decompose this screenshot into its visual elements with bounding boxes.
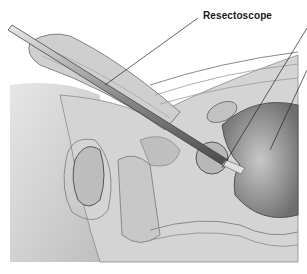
resectoscope-label: Resectoscope	[203, 10, 272, 21]
illustration-drawing	[0, 0, 307, 274]
anatomical-illustration: Resectoscope	[0, 0, 307, 274]
